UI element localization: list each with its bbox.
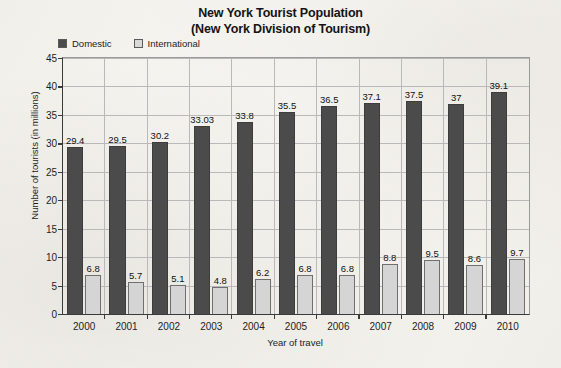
bar-value-label: 5.7 bbox=[129, 270, 142, 281]
legend-item-international: International bbox=[134, 38, 200, 49]
bar-rect bbox=[424, 260, 440, 314]
x-tick-label: 2002 bbox=[148, 321, 190, 332]
bar-group: 29.55.72001 bbox=[105, 58, 147, 314]
chart-subtitle: (New York Division of Tourism) bbox=[0, 22, 561, 38]
bar-value-label: 5.1 bbox=[171, 273, 184, 284]
y-tick-label: 45 bbox=[46, 53, 57, 64]
x-tick-label: 2001 bbox=[105, 321, 147, 332]
bar-international[interactable]: 5.7 bbox=[128, 282, 144, 314]
bar-rect bbox=[279, 112, 295, 314]
x-tick-label: 2004 bbox=[232, 321, 274, 332]
bar-international[interactable]: 6.8 bbox=[339, 275, 355, 314]
bar-rect bbox=[339, 275, 355, 314]
bar-value-label: 37.5 bbox=[405, 89, 424, 100]
x-tick-mark bbox=[189, 314, 190, 319]
chart-title: New York Tourist Population bbox=[0, 6, 561, 22]
bar-value-label: 33.03 bbox=[190, 114, 214, 125]
bar-international[interactable]: 8.6 bbox=[466, 265, 482, 314]
y-tick-label: 25 bbox=[46, 166, 57, 177]
bar-value-label: 4.8 bbox=[214, 275, 227, 286]
bar-groups: 29.46.8200029.55.7200130.25.1200233.034.… bbox=[63, 58, 529, 314]
bar-rect bbox=[321, 106, 337, 314]
y-axis-title: Number of tourists (in millions) bbox=[29, 46, 40, 266]
bar-domestic[interactable]: 39.1 bbox=[491, 92, 507, 314]
bar-domestic[interactable]: 29.5 bbox=[109, 146, 125, 314]
bar-international[interactable]: 6.8 bbox=[85, 275, 101, 314]
y-tick-label: 20 bbox=[46, 195, 57, 206]
y-tick-label: 15 bbox=[46, 223, 57, 234]
x-tick-mark bbox=[316, 314, 317, 319]
bar-value-label: 8.6 bbox=[468, 253, 481, 264]
bar-value-label: 37.1 bbox=[362, 91, 381, 102]
bar-domestic[interactable]: 37 bbox=[448, 104, 464, 314]
bar-domestic[interactable]: 33.03 bbox=[194, 126, 210, 314]
x-tick-label: 2008 bbox=[402, 321, 444, 332]
bar-rect bbox=[406, 101, 422, 314]
bar-international[interactable]: 4.8 bbox=[212, 287, 228, 314]
y-tick-label: 10 bbox=[46, 252, 57, 263]
x-tick-mark bbox=[358, 314, 359, 319]
bar-international[interactable]: 5.1 bbox=[170, 285, 186, 314]
x-tick-mark bbox=[274, 314, 275, 319]
bar-value-label: 36.5 bbox=[320, 94, 339, 105]
bar-domestic[interactable]: 35.5 bbox=[279, 112, 295, 314]
bar-value-label: 9.5 bbox=[425, 248, 438, 259]
bar-value-label: 30.2 bbox=[151, 130, 170, 141]
bar-value-label: 37 bbox=[451, 92, 462, 103]
bar-international[interactable]: 8.8 bbox=[382, 264, 398, 314]
bar-rect bbox=[466, 265, 482, 314]
bar-value-label: 39.1 bbox=[489, 80, 508, 91]
bar-rect bbox=[297, 275, 313, 314]
bar-international[interactable]: 9.7 bbox=[509, 259, 525, 314]
bar-group: 378.62009 bbox=[444, 58, 486, 314]
chart-page: New York Tourist Population (New York Di… bbox=[0, 0, 561, 368]
y-tick-label: 35 bbox=[46, 109, 57, 120]
x-tick-mark bbox=[443, 314, 444, 319]
legend-swatch-international-icon bbox=[134, 39, 143, 48]
bar-rect bbox=[85, 275, 101, 314]
x-tick-label: 2006 bbox=[317, 321, 359, 332]
bar-domestic[interactable]: 36.5 bbox=[321, 106, 337, 314]
bar-group: 30.25.12002 bbox=[148, 58, 190, 314]
bar-group: 37.18.82007 bbox=[360, 58, 402, 314]
bar-group: 33.034.82003 bbox=[190, 58, 232, 314]
bar-rect bbox=[128, 282, 144, 314]
bar-group: 35.56.82005 bbox=[275, 58, 317, 314]
y-tick-mark bbox=[58, 314, 63, 315]
bar-rect bbox=[67, 147, 83, 314]
bar-rect bbox=[152, 142, 168, 314]
bar-rect bbox=[364, 103, 380, 314]
legend-item-domestic: Domestic bbox=[58, 38, 112, 49]
x-tick-mark bbox=[485, 314, 486, 319]
bar-rect bbox=[170, 285, 186, 314]
bar-international[interactable]: 9.5 bbox=[424, 260, 440, 314]
y-tick-label: 0 bbox=[51, 309, 57, 320]
y-tick-label: 40 bbox=[46, 81, 57, 92]
bar-international[interactable]: 6.2 bbox=[255, 279, 271, 314]
bar-domestic[interactable]: 33.8 bbox=[237, 122, 253, 314]
bar-international[interactable]: 6.8 bbox=[297, 275, 313, 314]
bar-value-label: 6.2 bbox=[256, 267, 269, 278]
x-axis-title: Year of travel bbox=[62, 337, 528, 348]
x-tick-label: 2003 bbox=[190, 321, 232, 332]
bar-group: 33.86.22004 bbox=[232, 58, 274, 314]
x-tick-label: 2007 bbox=[360, 321, 402, 332]
x-tick-mark bbox=[104, 314, 105, 319]
x-tick-mark bbox=[231, 314, 232, 319]
bar-domestic[interactable]: 37.5 bbox=[406, 101, 422, 314]
bar-value-label: 6.8 bbox=[298, 263, 311, 274]
bar-domestic[interactable]: 29.4 bbox=[67, 147, 83, 314]
bar-value-label: 6.8 bbox=[341, 263, 354, 274]
bar-group: 37.59.52008 bbox=[402, 58, 444, 314]
y-tick-label: 5 bbox=[51, 280, 57, 291]
bar-value-label: 35.5 bbox=[278, 100, 297, 111]
bar-domestic[interactable]: 30.2 bbox=[152, 142, 168, 314]
bar-rect bbox=[382, 264, 398, 314]
bar-rect bbox=[237, 122, 253, 314]
bar-rect bbox=[194, 126, 210, 314]
bar-rect bbox=[255, 279, 271, 314]
x-tick-mark bbox=[147, 314, 148, 319]
x-tick-label: 2010 bbox=[487, 321, 529, 332]
bar-domestic[interactable]: 37.1 bbox=[364, 103, 380, 314]
x-tick-label: 2000 bbox=[63, 321, 105, 332]
